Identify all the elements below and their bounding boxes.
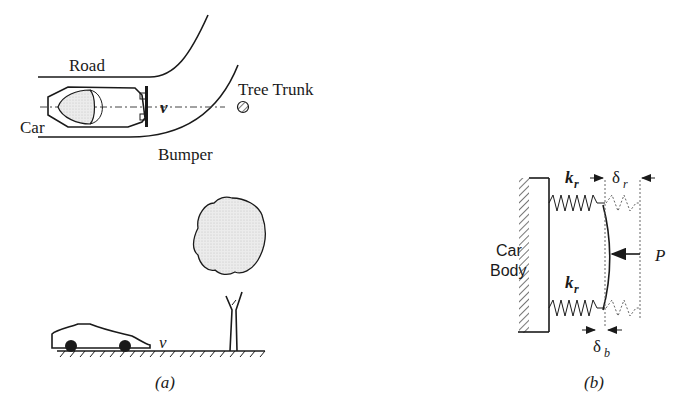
car-body-label-line1: Car bbox=[496, 242, 522, 259]
rear-wheel-icon bbox=[119, 340, 131, 352]
delta-r-label: δ bbox=[612, 168, 620, 187]
bumper-bar bbox=[145, 86, 148, 127]
spring-bottom-sub: r bbox=[574, 282, 579, 296]
car-label: Car bbox=[20, 118, 45, 137]
spring-top-label: k bbox=[565, 168, 574, 187]
spring-top bbox=[549, 195, 605, 211]
panel-b-bumper-model: P δ r k r k r δ b Car Body (b) bbox=[490, 168, 665, 392]
spring-bottom-label: k bbox=[565, 273, 574, 292]
velocity-label-side: v bbox=[159, 333, 167, 352]
delta-b-sub: b bbox=[604, 346, 610, 360]
front-wheel-icon bbox=[65, 340, 77, 352]
car-body-label-line2: Body bbox=[490, 262, 526, 279]
delta-b-label: δ bbox=[593, 337, 601, 356]
tree-trunk-label: Tree Trunk bbox=[238, 80, 314, 99]
bumper-deflected bbox=[603, 205, 610, 310]
delta-r-sub: r bbox=[623, 177, 628, 191]
force-label: P bbox=[654, 246, 665, 265]
road-label: Road bbox=[69, 56, 105, 75]
panel-a-top-view: Road Car v Tree Trunk Bumper bbox=[20, 15, 314, 164]
spring-top-sub: r bbox=[574, 177, 579, 191]
road-upper-edge bbox=[38, 15, 208, 77]
bumper-label: Bumper bbox=[158, 145, 213, 164]
spring-bottom bbox=[549, 300, 605, 316]
figure-canvas: Road Car v Tree Trunk Bumper v bbox=[0, 0, 678, 410]
velocity-label-top: v bbox=[160, 98, 168, 117]
tree-icon bbox=[194, 197, 266, 351]
car-side-view bbox=[52, 324, 150, 352]
tree-trunk-icon bbox=[238, 102, 249, 113]
panel-a-caption: (a) bbox=[155, 373, 175, 392]
panel-a-side-view: v (a) bbox=[52, 197, 265, 392]
panel-b-caption: (b) bbox=[584, 373, 604, 392]
